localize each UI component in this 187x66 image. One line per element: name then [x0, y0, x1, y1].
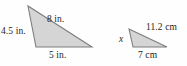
- similar-triangles-figure: 4.5 in. 8 in. 5 in. x 11.2 cm 7 cm: [0, 0, 187, 66]
- left-triangle-side-label-left: 4.5 in.: [1, 27, 26, 37]
- right-triangle-side-label-hypotenuse: 11.2 cm: [146, 23, 177, 33]
- figure-canvas: [0, 0, 187, 66]
- left-triangle-side-label-hypotenuse: 8 in.: [47, 15, 64, 25]
- left-triangle-side-label-base: 5 in.: [49, 51, 66, 61]
- right-triangle-side-label-base: 7 cm: [138, 51, 157, 61]
- right-triangle-side-label-unknown-x: x: [119, 35, 123, 45]
- left-triangle-shape: [28, 6, 92, 47]
